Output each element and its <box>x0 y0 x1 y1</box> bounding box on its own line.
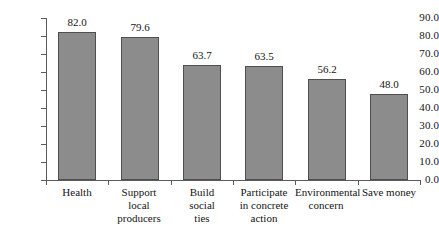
bar-value-label: 63.7 <box>172 50 232 61</box>
x-axis-category-label: Environmentalconcern <box>295 186 357 212</box>
x-axis-tick <box>358 180 359 185</box>
x-axis-category-label-line: local <box>108 199 170 212</box>
bar <box>245 66 283 180</box>
x-axis-category-label-line: Environmental <box>295 186 357 199</box>
x-axis-tick <box>420 180 421 185</box>
y-axis-line <box>46 18 47 180</box>
y-axis-tick-label: 90.0 <box>401 12 439 23</box>
x-axis-category-label-line: Health <box>46 186 108 199</box>
x-axis-category-label: Save money <box>358 186 420 199</box>
x-axis-category-label-line: Save money <box>358 186 420 199</box>
y-axis-tick-label: 80.0 <box>401 30 439 41</box>
x-axis-category-label: Health <box>46 186 108 199</box>
x-axis-category-label-line: producers <box>108 212 170 225</box>
x-axis-category-label: Participatein concreteaction <box>233 186 295 225</box>
bar-value-label: 79.6 <box>110 22 170 33</box>
x-axis-category-label-line: ties <box>171 212 233 225</box>
x-axis-category-label: Buildsocialties <box>171 186 233 225</box>
x-axis-category-label-line: Participate <box>233 186 295 199</box>
x-axis-category-label-line: action <box>233 212 295 225</box>
x-axis-category-label-line: concern <box>295 199 357 212</box>
x-axis-category-label-line: Build <box>171 186 233 199</box>
y-axis-tick-label: 60.0 <box>401 66 439 77</box>
x-axis-tick <box>46 180 47 185</box>
x-axis-tick <box>295 180 296 185</box>
x-axis-tick <box>233 180 234 185</box>
x-axis-category-label-line: social <box>171 199 233 212</box>
bar-value-label: 56.2 <box>297 64 357 75</box>
bar <box>58 32 96 180</box>
x-axis-category-label-line: Support <box>108 186 170 199</box>
x-axis-category-label: Supportlocalproducers <box>108 186 170 225</box>
bar-value-label: 63.5 <box>234 51 294 62</box>
x-axis-tick <box>108 180 109 185</box>
bar-value-label: 82.0 <box>47 17 107 28</box>
bar-chart: 90.080.070.060.050.040.030.020.010.00.0 … <box>0 0 439 232</box>
y-axis-tick-label: 70.0 <box>401 48 439 59</box>
bar <box>121 37 159 180</box>
bar-value-label: 48.0 <box>359 79 419 90</box>
bar <box>183 65 221 180</box>
x-axis-category-label-line: in concrete <box>233 199 295 212</box>
bar <box>370 94 408 180</box>
x-axis-tick <box>171 180 172 185</box>
bar <box>308 79 346 180</box>
